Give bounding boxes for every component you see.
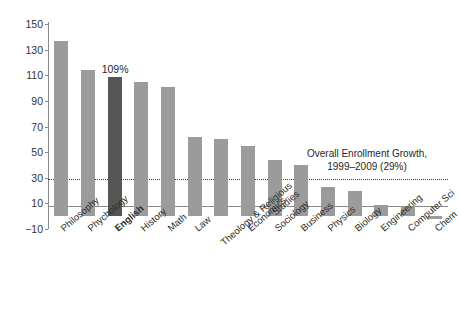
y-tick-label: 30 (31, 173, 43, 183)
y-tick-label: 50 (31, 147, 43, 157)
bar-series (48, 22, 448, 229)
y-tick-label: 90 (31, 96, 43, 106)
plot-area: 1501301109070503010−10 Overall Enrollmen… (48, 22, 448, 229)
x-axis-labels: PhilosophyPhychologyEnglishHistoryMathLa… (48, 206, 458, 316)
bar[interactable] (161, 87, 175, 216)
x-axis-label: Biology (353, 205, 384, 234)
bar[interactable] (188, 137, 202, 216)
figure-caption (36, 312, 436, 326)
english-value-label: 109% (102, 63, 129, 75)
y-tick-label: 110 (26, 70, 43, 80)
y-tick-label: 10 (31, 198, 43, 208)
y-tick-label: 150 (25, 19, 43, 29)
y-tick-label: −10 (25, 224, 43, 234)
x-axis-label-line1: Math (165, 211, 188, 233)
x-axis-label: Math (166, 212, 189, 234)
y-tick-label: 70 (31, 122, 43, 132)
bar[interactable] (134, 82, 148, 217)
bar[interactable] (214, 139, 228, 216)
x-axis-label: Law (193, 214, 213, 233)
bar[interactable] (54, 41, 68, 217)
y-tick-label: 130 (25, 45, 43, 55)
x-axis-label-line1: Law (192, 214, 213, 234)
x-axis-label-line1: Biology (352, 205, 383, 234)
